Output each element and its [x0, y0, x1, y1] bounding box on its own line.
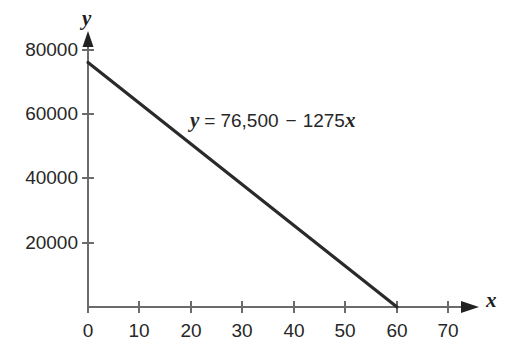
- x-tick-label-60: 60: [386, 320, 407, 342]
- x-tick-label-0: 0: [83, 320, 94, 342]
- y-tick-label-60000: 60000: [0, 103, 78, 125]
- x-tick-label-20: 20: [180, 320, 201, 342]
- equation-annotation: y=76,500−1275x: [190, 108, 355, 133]
- x-tick-label-40: 40: [283, 320, 304, 342]
- equation-minus-sign: −: [286, 110, 297, 131]
- equation-rhs-variable: x: [345, 108, 356, 132]
- x-tick-label-70: 70: [437, 320, 458, 342]
- x-tick-label-50: 50: [334, 320, 355, 342]
- x-axis: [88, 301, 479, 313]
- data-line-series: [88, 63, 397, 308]
- y-tick-label-40000: 40000: [0, 167, 78, 189]
- x-tick-label-10: 10: [128, 320, 149, 342]
- y-tick-label-20000: 20000: [0, 232, 78, 254]
- x-tick-label-30: 30: [231, 320, 252, 342]
- y-axis-label: y: [82, 6, 91, 31]
- equation-slope-value: 1275: [303, 110, 345, 131]
- x-axis-label: x: [486, 288, 497, 313]
- equation-intercept-value: 76,500: [220, 110, 278, 131]
- y-tick-label-80000: 80000: [0, 39, 78, 61]
- equation-equals-sign: =: [204, 110, 215, 131]
- y-axis: [83, 31, 94, 307]
- chart-figure: y x 80000 60000 40000 20000 0 10 20 30 4…: [0, 0, 511, 355]
- equation-lhs-variable: y: [190, 108, 199, 132]
